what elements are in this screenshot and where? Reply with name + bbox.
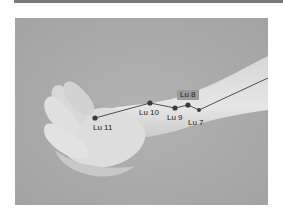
point-lu7-marker (197, 108, 201, 112)
point-label-lu10: Lu 10 (139, 109, 159, 117)
point-label-lu8: Lu 8 (177, 90, 199, 100)
point-label-lu11: Lu 11 (93, 124, 112, 132)
top-rule (14, 0, 283, 3)
point-lu8-marker (185, 102, 190, 107)
point-lu9-marker (172, 105, 177, 110)
point-label-lu7: Lu 7 (188, 119, 204, 127)
point-lu11-marker (92, 115, 97, 120)
point-label-lu9: Lu 9 (167, 114, 183, 122)
figure-photo: Lu 11 Lu 10 Lu 9 Lu 8 Lu 7 (15, 18, 268, 205)
point-lu10-marker (147, 100, 152, 105)
